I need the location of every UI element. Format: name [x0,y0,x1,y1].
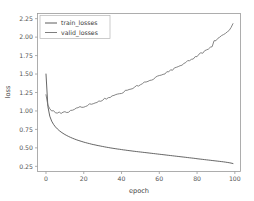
chart-legend[interactable]: train_losses valid_losses [40,16,110,39]
y-tick-label: 0.25 [19,163,33,170]
y-tick-label: 0.75 [19,126,33,133]
y-tick-label: 1.25 [19,89,33,96]
y-tick-label: 1.00 [19,107,33,114]
x-tick-label: 80 [193,175,201,182]
y-tick-label: 2.25 [19,15,33,22]
legend-label-valid: valid_losses [61,29,98,37]
x-tick-label: 40 [118,175,126,182]
y-tick-label: 2.00 [19,33,33,40]
loss-curve-chart: 020406080100 0.250.500.751.001.251.501.7… [0,0,254,201]
x-tick-label: 60 [155,175,163,182]
y-tick-label: 0.50 [19,144,33,151]
x-tick-label: 20 [80,175,88,182]
x-tick-label: 100 [229,175,241,182]
y-tick-label: 1.75 [19,52,33,59]
y-tick-label: 1.50 [19,70,33,77]
figure-background [0,0,254,201]
chart-figure: 020406080100 0.250.500.751.001.251.501.7… [0,0,254,201]
x-axis-label: epoch [129,187,149,195]
y-axis-label: loss [4,85,12,98]
legend-label-train: train_losses [61,19,97,27]
x-tick-label: 0 [44,175,48,182]
